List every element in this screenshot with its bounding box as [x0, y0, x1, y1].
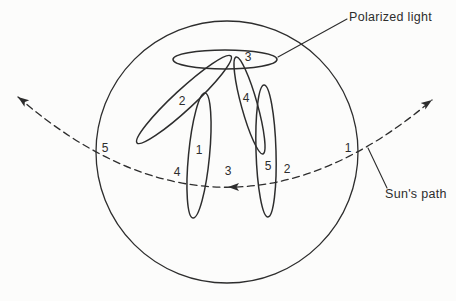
- sun-path-number-2: 2: [284, 163, 291, 175]
- polarized-light-label: Polarized light: [349, 11, 432, 24]
- sun-path-number-1: 1: [345, 142, 352, 154]
- sun-path-number-5: 5: [102, 142, 109, 154]
- ellipse-number-5: 5: [265, 160, 272, 172]
- ellipse-number-3: 3: [245, 51, 252, 63]
- polarization-diagram: Polarized light Sun's path 1 2 3 4 5 1 2…: [0, 0, 456, 301]
- ellipse-number-1: 1: [196, 144, 203, 156]
- sun-path-number-3: 3: [225, 165, 232, 177]
- ellipse-number-2: 2: [179, 95, 186, 107]
- diagram-canvas: [0, 0, 456, 301]
- ellipse-number-4: 4: [243, 92, 250, 104]
- sun-path-number-4: 4: [174, 166, 181, 178]
- suns-path-label: Sun's path: [385, 188, 447, 201]
- paper-background: [0, 0, 456, 301]
